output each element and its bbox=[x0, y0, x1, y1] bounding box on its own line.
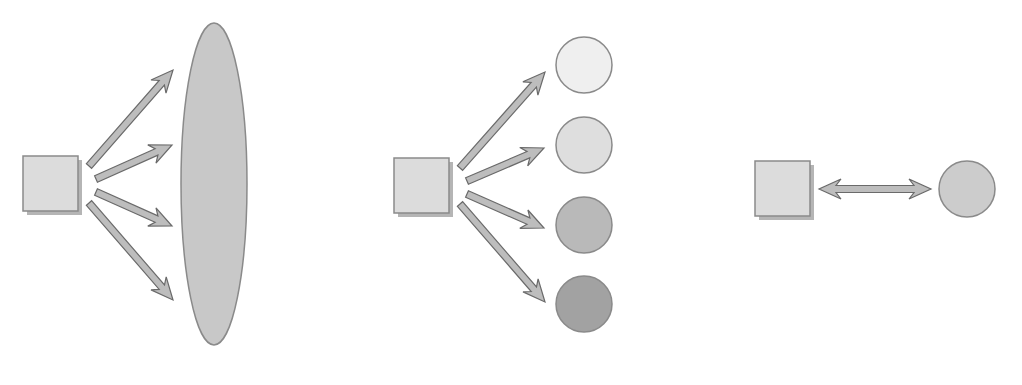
source-node-square-body bbox=[23, 156, 78, 211]
target-node-circle bbox=[556, 197, 612, 253]
panel-unicast bbox=[755, 161, 995, 220]
target-node-circle bbox=[556, 117, 612, 173]
double-arrow-icon bbox=[819, 179, 931, 199]
target-node-circle bbox=[556, 276, 612, 332]
target-node-circle bbox=[939, 161, 995, 217]
diagram-layer bbox=[23, 23, 995, 345]
source-node-square bbox=[755, 161, 814, 220]
source-node-square-body bbox=[394, 158, 449, 213]
source-node-square bbox=[23, 156, 82, 215]
source-node-square bbox=[394, 158, 453, 217]
diagram-canvas bbox=[0, 0, 1022, 385]
panel-multicast bbox=[394, 37, 612, 332]
target-node-circle bbox=[556, 37, 612, 93]
panel-broadcast bbox=[23, 23, 247, 345]
source-node-square-body bbox=[755, 161, 810, 216]
target-group-ellipse bbox=[181, 23, 247, 345]
